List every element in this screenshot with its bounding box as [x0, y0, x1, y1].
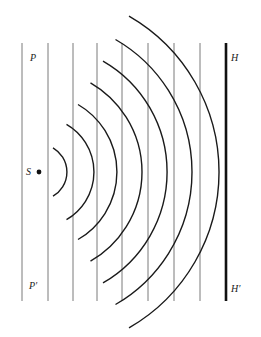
label-H: H	[230, 52, 239, 63]
label-H-prime: H′	[230, 283, 241, 294]
label-P-prime: P′	[28, 280, 38, 291]
label-S: S	[26, 166, 31, 177]
plane-wavefronts	[22, 43, 200, 301]
circular-wavefronts	[53, 16, 219, 328]
label-P: P	[29, 52, 36, 63]
circular-wavefront-arc	[53, 148, 67, 196]
wavefront-diagram: P P′ S H H′	[0, 0, 261, 337]
circular-wavefront-arc	[67, 124, 94, 219]
circular-wavefront-arc	[103, 61, 167, 283]
source-point-S	[37, 170, 42, 175]
